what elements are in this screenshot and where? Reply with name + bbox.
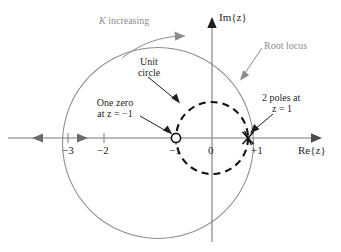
root-locus-leader bbox=[240, 48, 262, 81]
two-poles-leader bbox=[250, 114, 273, 134]
k-increasing-label: K increasing bbox=[99, 15, 149, 26]
k-increasing-leader bbox=[122, 32, 185, 58]
k-symbol: K bbox=[99, 15, 106, 26]
tick-label-plus1: +1 bbox=[251, 144, 263, 156]
tick-label-minus3: −3 bbox=[62, 144, 74, 156]
k-increasing-text: increasing bbox=[106, 15, 150, 26]
tick-label-minus1: −1 bbox=[169, 144, 181, 156]
root-locus-label: Root locus bbox=[264, 40, 307, 51]
one-zero-label-line2: at z = −1 bbox=[84, 108, 146, 119]
locus-arrow-left bbox=[32, 133, 43, 142]
one-zero-label: One zero at z = −1 bbox=[84, 97, 146, 119]
root-locus-figure: Im{z} Re{z} −3 −2 −1 0 +1 K increasing R… bbox=[0, 0, 341, 252]
real-axis-arrowhead bbox=[311, 133, 322, 143]
one-zero-label-line1: One zero bbox=[84, 97, 146, 108]
tick-label-minus2: −2 bbox=[97, 144, 109, 156]
unit-circle-label: Unit circle bbox=[125, 56, 173, 78]
figure-canvas bbox=[0, 0, 341, 252]
imag-axis-arrowhead bbox=[207, 17, 216, 28]
unit-circle-leader bbox=[148, 77, 180, 103]
real-axis-label: Re{z} bbox=[298, 144, 326, 156]
unit-circle-label-line1: Unit bbox=[125, 56, 173, 67]
locus-arrow-right bbox=[77, 133, 88, 142]
unit-circle-label-line2: circle bbox=[125, 67, 173, 78]
tick-label-zero: 0 bbox=[208, 144, 214, 156]
two-poles-label: 2 poles at z = 1 bbox=[262, 92, 300, 114]
two-poles-label-line2: z = 1 bbox=[262, 103, 300, 114]
zero-marker bbox=[171, 133, 180, 142]
imag-axis-label: Im{z} bbox=[219, 11, 247, 23]
two-poles-label-line1: 2 poles at bbox=[262, 92, 300, 103]
